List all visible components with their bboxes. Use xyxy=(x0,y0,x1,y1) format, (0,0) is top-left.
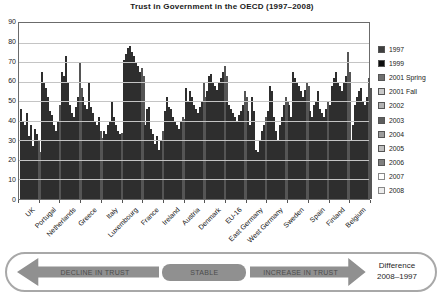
difference-banner: DECLINE IN TRUST STABLE INCREASE IN TRUS… xyxy=(5,252,437,292)
legend-item: 1997 xyxy=(378,42,442,56)
legend-swatch-icon xyxy=(378,102,385,109)
x-tick xyxy=(308,200,309,203)
bar-group xyxy=(184,23,205,199)
x-tick xyxy=(370,200,371,203)
legend-item: 2006 xyxy=(378,156,442,170)
y-tick-label: 10 xyxy=(2,176,16,183)
bar-group xyxy=(60,23,81,199)
x-category-label: Sweden xyxy=(282,206,305,229)
x-category-label: Ireland xyxy=(161,206,181,226)
x-tick xyxy=(329,200,330,203)
x-tick xyxy=(122,200,123,203)
legend-label: 2001 Fall xyxy=(389,88,417,95)
stable-label: STABLE xyxy=(190,269,218,276)
x-category-label: Finland xyxy=(325,206,346,227)
legend-swatch-icon xyxy=(378,173,385,180)
bar-group xyxy=(163,23,184,199)
legend-swatch-icon xyxy=(378,159,385,166)
bar-group xyxy=(246,23,267,199)
increase-label: INCREASE IN TRUST xyxy=(263,269,338,276)
legend-item: 2005 xyxy=(378,141,442,155)
legend-item: 2001 Spring xyxy=(378,70,442,84)
bar-group xyxy=(19,23,40,199)
bar-group xyxy=(287,23,308,199)
bar-group xyxy=(101,23,122,199)
x-category-label: Italy xyxy=(105,206,119,220)
x-category-label: France xyxy=(140,206,160,226)
x-tick xyxy=(246,200,247,203)
legend-label: 2006 xyxy=(389,159,404,166)
chart-legend: 199719992001 Spring2001 Fall200220032004… xyxy=(378,42,442,198)
x-tick xyxy=(204,200,205,203)
legend-item: 2004 xyxy=(378,127,442,141)
gridline xyxy=(19,43,369,44)
decline-arrow-icon: DECLINE IN TRUST xyxy=(17,258,159,286)
x-tick xyxy=(80,200,81,203)
y-tick-label: 50 xyxy=(2,97,16,104)
legend-label: 2001 Spring xyxy=(389,74,426,81)
y-tick-label: 40 xyxy=(2,117,16,124)
decline-label: DECLINE IN TRUST xyxy=(60,269,129,276)
x-tick xyxy=(287,200,288,203)
legend-swatch-icon xyxy=(378,88,385,95)
y-tick-label: 90 xyxy=(2,18,16,25)
legend-swatch-icon xyxy=(378,60,385,67)
stable-pill: STABLE xyxy=(162,264,246,281)
y-tick-label: 20 xyxy=(2,156,16,163)
bar-group xyxy=(81,23,102,199)
legend-label: 2003 xyxy=(389,117,404,124)
gridline xyxy=(19,140,369,141)
y-tick-label: 30 xyxy=(2,137,16,144)
x-tick xyxy=(349,200,350,203)
bar-group xyxy=(307,23,328,199)
bar-group xyxy=(40,23,61,199)
legend-swatch-icon xyxy=(378,131,385,138)
bar-group xyxy=(143,23,164,199)
legend-swatch-icon xyxy=(378,46,385,53)
legend-swatch-icon xyxy=(378,117,385,124)
x-tick xyxy=(142,200,143,203)
bar xyxy=(370,88,372,199)
bar-group xyxy=(225,23,246,199)
difference-caption: Difference 2008–1997 xyxy=(369,261,425,283)
legend-item: 2001 Fall xyxy=(378,85,442,99)
gridline xyxy=(19,101,369,102)
legend-label: 2002 xyxy=(389,102,404,109)
gridline xyxy=(19,121,369,122)
gridline xyxy=(19,82,369,83)
legend-item: 2003 xyxy=(378,113,442,127)
x-tick xyxy=(18,200,19,203)
bar-group xyxy=(122,23,143,199)
legend-label: 2007 xyxy=(389,173,404,180)
gridline xyxy=(19,160,369,161)
legend-label: 1999 xyxy=(389,60,404,67)
legend-item: 2007 xyxy=(378,170,442,184)
difference-line2: 2008–1997 xyxy=(369,272,425,283)
x-category-label: UK xyxy=(24,206,36,218)
legend-label: 1997 xyxy=(389,46,404,53)
gridline xyxy=(19,62,369,63)
y-tick-label: 80 xyxy=(2,38,16,45)
bar-group xyxy=(266,23,287,199)
x-tick xyxy=(163,200,164,203)
legend-item: 2002 xyxy=(378,99,442,113)
x-tick xyxy=(39,200,40,203)
bar-groups-container xyxy=(19,23,369,199)
x-tick xyxy=(184,200,185,203)
bar-group xyxy=(204,23,225,199)
chart-figure: Trust in Government in the OECD (1997–20… xyxy=(0,0,444,301)
y-tick-label: 60 xyxy=(2,77,16,84)
bar-group xyxy=(328,23,349,199)
x-category-label: Greece xyxy=(77,206,98,227)
difference-line1: Difference xyxy=(369,261,425,272)
y-tick-label: 70 xyxy=(2,58,16,65)
legend-label: 2008 xyxy=(389,187,404,194)
bar-group xyxy=(349,23,370,199)
legend-swatch-icon xyxy=(378,74,385,81)
legend-item: 2008 xyxy=(378,184,442,198)
increase-arrow-icon: INCREASE IN TRUST xyxy=(250,258,366,286)
x-category-label: EU-16 xyxy=(224,206,243,225)
x-tick xyxy=(59,200,60,203)
plot-area xyxy=(18,22,370,200)
legend-swatch-icon xyxy=(378,145,385,152)
